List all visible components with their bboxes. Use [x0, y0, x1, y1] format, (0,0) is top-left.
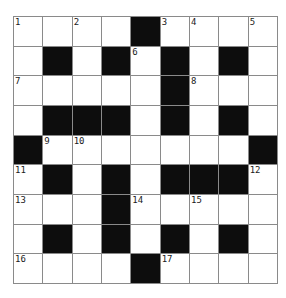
black-cell: [43, 106, 71, 135]
clue-number: 6: [132, 47, 137, 57]
black-cell: [43, 165, 71, 194]
black-cell: [102, 225, 130, 254]
black-cell: [43, 225, 71, 254]
black-cell: [102, 47, 130, 76]
black-cell: [102, 195, 130, 224]
white-cell[interactable]: [14, 106, 42, 135]
black-cell: [219, 225, 247, 254]
white-cell[interactable]: [102, 17, 130, 46]
white-cell[interactable]: 12: [249, 165, 277, 194]
black-cell: [161, 165, 189, 194]
black-cell: [131, 254, 159, 283]
clue-number: 12: [250, 165, 261, 175]
white-cell[interactable]: [219, 195, 247, 224]
black-cell: [219, 47, 247, 76]
clue-number: 5: [250, 17, 255, 27]
white-cell[interactable]: [190, 136, 218, 165]
white-cell[interactable]: [73, 195, 101, 224]
white-cell[interactable]: [190, 254, 218, 283]
white-cell[interactable]: 1: [14, 17, 42, 46]
white-cell[interactable]: [131, 106, 159, 135]
white-cell[interactable]: 17: [161, 254, 189, 283]
white-cell[interactable]: 9: [43, 136, 71, 165]
white-cell[interactable]: [131, 165, 159, 194]
white-cell[interactable]: [43, 254, 71, 283]
white-cell[interactable]: 14: [131, 195, 159, 224]
clue-number: 7: [15, 76, 20, 86]
white-cell[interactable]: [219, 76, 247, 105]
white-cell[interactable]: 6: [131, 47, 159, 76]
white-cell[interactable]: 15: [190, 195, 218, 224]
black-cell: [131, 17, 159, 46]
white-cell[interactable]: 7: [14, 76, 42, 105]
white-cell[interactable]: [131, 225, 159, 254]
white-cell[interactable]: [131, 136, 159, 165]
white-cell[interactable]: [161, 136, 189, 165]
clue-number: 2: [74, 17, 79, 27]
white-cell[interactable]: [131, 76, 159, 105]
black-cell: [249, 136, 277, 165]
clue-number: 13: [15, 195, 26, 205]
white-cell[interactable]: [190, 47, 218, 76]
white-cell[interactable]: [102, 254, 130, 283]
white-cell[interactable]: [14, 225, 42, 254]
white-cell[interactable]: [14, 47, 42, 76]
clue-number: 1: [15, 17, 20, 27]
white-cell[interactable]: [190, 106, 218, 135]
crossword-grid: 1234567891011121314151617: [13, 16, 278, 284]
black-cell: [161, 106, 189, 135]
clue-number: 8: [191, 76, 196, 86]
black-cell: [14, 136, 42, 165]
white-cell[interactable]: [219, 254, 247, 283]
clue-number: 17: [162, 254, 173, 264]
black-cell: [161, 225, 189, 254]
black-cell: [161, 47, 189, 76]
black-cell: [219, 165, 247, 194]
black-cell: [102, 165, 130, 194]
white-cell[interactable]: [73, 165, 101, 194]
white-cell[interactable]: 8: [190, 76, 218, 105]
white-cell[interactable]: 5: [249, 17, 277, 46]
white-cell[interactable]: 13: [14, 195, 42, 224]
white-cell[interactable]: [249, 225, 277, 254]
white-cell[interactable]: 10: [73, 136, 101, 165]
white-cell[interactable]: 11: [14, 165, 42, 194]
white-cell[interactable]: [219, 136, 247, 165]
clue-number: 15: [191, 195, 202, 205]
black-cell: [43, 47, 71, 76]
white-cell[interactable]: [219, 17, 247, 46]
white-cell[interactable]: 3: [161, 17, 189, 46]
white-cell[interactable]: [43, 76, 71, 105]
clue-number: 11: [15, 165, 26, 175]
white-cell[interactable]: 16: [14, 254, 42, 283]
black-cell: [102, 106, 130, 135]
white-cell[interactable]: 2: [73, 17, 101, 46]
white-cell[interactable]: [43, 17, 71, 46]
black-cell: [219, 106, 247, 135]
white-cell[interactable]: [249, 195, 277, 224]
white-cell[interactable]: [249, 254, 277, 283]
clue-number: 10: [74, 136, 85, 146]
white-cell[interactable]: [73, 254, 101, 283]
white-cell[interactable]: 4: [190, 17, 218, 46]
black-cell: [190, 165, 218, 194]
white-cell[interactable]: [249, 76, 277, 105]
black-cell: [73, 106, 101, 135]
white-cell[interactable]: [249, 47, 277, 76]
white-cell[interactable]: [102, 136, 130, 165]
white-cell[interactable]: [43, 195, 71, 224]
clue-number: 16: [15, 254, 26, 264]
white-cell[interactable]: [102, 76, 130, 105]
clue-number: 9: [44, 136, 49, 146]
clue-number: 3: [162, 17, 167, 27]
white-cell[interactable]: [73, 225, 101, 254]
white-cell[interactable]: [249, 106, 277, 135]
clue-number: 4: [191, 17, 196, 27]
clue-number: 14: [132, 195, 143, 205]
black-cell: [161, 76, 189, 105]
white-cell[interactable]: [73, 76, 101, 105]
crossword-puzzle: 1234567891011121314151617: [13, 16, 278, 284]
white-cell[interactable]: [73, 47, 101, 76]
white-cell[interactable]: [190, 225, 218, 254]
white-cell[interactable]: [161, 195, 189, 224]
